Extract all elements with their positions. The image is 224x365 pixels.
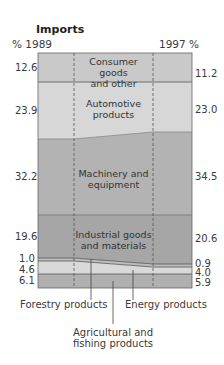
value-left-agricultural: 6.1	[19, 275, 35, 286]
label-line: and materials	[70, 240, 157, 251]
value-left-energy: 4.6	[19, 264, 35, 275]
value-left-forestry: 1.0	[19, 253, 35, 264]
label-automotive: Automotive products	[74, 98, 153, 120]
value-left-industrial: 19.6	[15, 231, 37, 242]
label-forestry: Forestry products	[20, 299, 108, 310]
label-industrial: Industrial goods and materials	[70, 229, 157, 251]
value-right-machinery: 34.5	[195, 171, 217, 182]
value-left-machinery: 32.2	[15, 171, 37, 182]
label-line: Machinery and	[74, 168, 153, 179]
label-line: Industrial goods	[70, 229, 157, 240]
area-agricultural	[38, 274, 192, 288]
value-left-consumer: 12.6	[15, 62, 37, 73]
label-line: and other	[74, 78, 153, 89]
label-consumer-goods: Consumer goods and other	[74, 56, 153, 89]
value-right-automotive: 23.0	[195, 104, 217, 115]
label-line: Automotive	[74, 98, 153, 109]
label-line: Agricultural and	[68, 327, 158, 338]
label-machinery: Machinery and equipment	[74, 168, 153, 190]
value-right-industrial: 20.6	[195, 233, 217, 244]
label-line: Consumer goods	[74, 56, 153, 78]
value-right-consumer: 11.2	[195, 68, 217, 79]
label-agricultural: Agricultural and fishing products	[68, 327, 158, 349]
label-line: fishing products	[68, 338, 158, 349]
label-line: products	[74, 109, 153, 120]
label-energy: Energy products	[125, 299, 207, 310]
label-line: equipment	[74, 179, 153, 190]
value-left-automotive: 23.9	[15, 105, 37, 116]
value-right-agricultural: 5.9	[195, 277, 211, 288]
